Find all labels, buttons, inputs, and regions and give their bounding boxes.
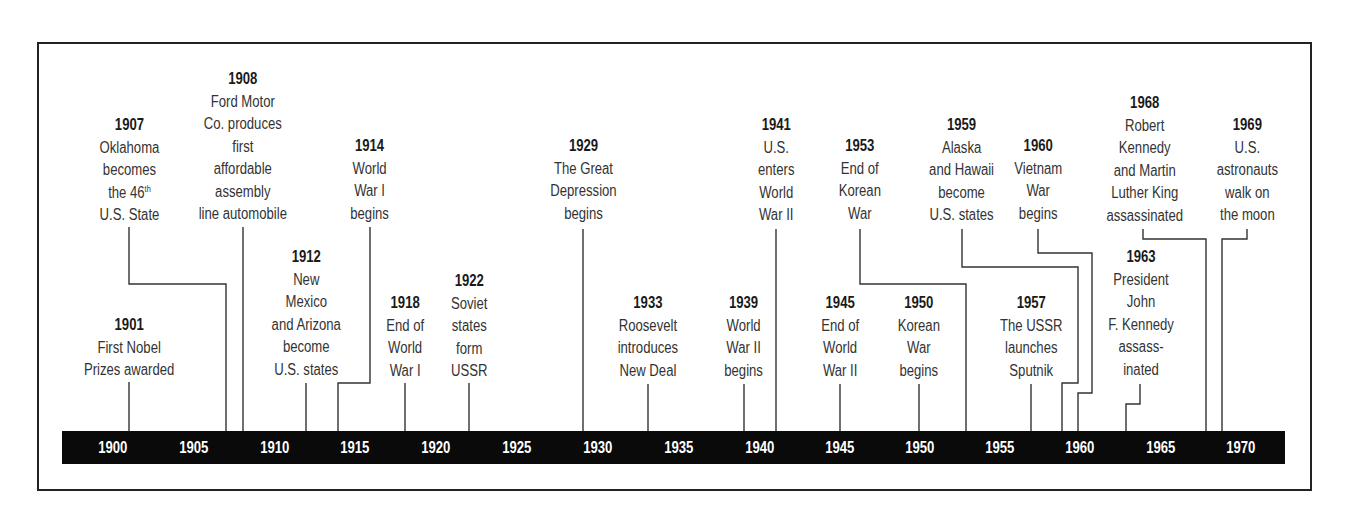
event-description-line: War <box>1014 180 1062 203</box>
event-year: 1953 <box>839 135 881 158</box>
tick-label-text: 1970 <box>1226 431 1255 464</box>
event-description-line: U.S. <box>1216 137 1277 160</box>
tick-label-text: 1960 <box>1065 431 1094 464</box>
axis-tick-label: 1925 <box>487 431 547 464</box>
axis-tick-label: 1930 <box>568 431 628 464</box>
tick-label-text: 1950 <box>905 431 934 464</box>
event-year: 1939 <box>725 292 764 315</box>
event-year: 1957 <box>1000 292 1063 315</box>
event-description-line: World <box>351 158 390 181</box>
event-description-line: Co. produces <box>199 113 287 136</box>
axis-tick-label: 1915 <box>325 431 385 464</box>
event-description-line: Vietnam <box>1014 158 1062 181</box>
event-description-line: John <box>1108 291 1174 314</box>
event-description-line: becomes <box>99 159 159 182</box>
event-description-line: Sputnik <box>1000 360 1063 383</box>
axis-tick-label: 1900 <box>83 431 143 464</box>
tick-label-text: 1920 <box>421 431 450 464</box>
event-description-line: assass- <box>1108 336 1174 359</box>
event-description-line: Prizes awarded <box>84 359 174 382</box>
event-1929: 1929The GreatDepressionbegins <box>503 135 663 225</box>
event-description-line: President <box>1108 269 1174 292</box>
event-description-line: Korean <box>839 180 881 203</box>
event-year: 1922 <box>451 270 487 293</box>
event-year: 1912 <box>271 246 340 269</box>
event-description-line: End of <box>839 158 881 181</box>
event-description-line: Oklahoma <box>99 137 159 160</box>
tick-label-text: 1910 <box>260 431 289 464</box>
event-year: 1969 <box>1216 114 1277 137</box>
tick-label-text: 1905 <box>179 431 208 464</box>
event-description-line: War I <box>351 180 390 203</box>
tick-label-text: 1940 <box>745 431 774 464</box>
connector-line-1969 <box>1222 229 1247 432</box>
event-description-line: assembly <box>199 181 287 204</box>
event-description-line: The Great <box>550 158 616 181</box>
event-description-line: War II <box>725 337 764 360</box>
tick-label-text: 1930 <box>583 431 612 464</box>
event-description-line: War <box>839 203 881 226</box>
event-description-line: begins <box>898 360 940 383</box>
event-year: 1901 <box>84 314 174 337</box>
event-description-line: astronauts <box>1216 159 1277 182</box>
event-1901: 1901First NobelPrizes awarded <box>49 314 209 382</box>
axis-tick-label: 1910 <box>245 431 305 464</box>
event-description-line: line automobile <box>199 203 287 226</box>
event-description-line: begins <box>351 203 390 226</box>
event-description-line: Korean <box>898 315 940 338</box>
event-description-line: begins <box>550 203 616 226</box>
event-description-line: Soviet <box>451 293 487 316</box>
axis-tick-label: 1965 <box>1131 431 1191 464</box>
tick-label-text: 1925 <box>502 431 531 464</box>
event-description-line: War <box>898 337 940 360</box>
event-description-line: states <box>451 315 487 338</box>
event-description-line: USSR <box>451 360 487 383</box>
event-description-line: inated <box>1108 359 1174 382</box>
event-description-line: begins <box>725 360 764 383</box>
axis-tick-label: 1920 <box>406 431 466 464</box>
ordinal-superscript: th <box>144 184 150 194</box>
axis-tick-label: 1960 <box>1050 431 1110 464</box>
event-description-line: F. Kennedy <box>1108 314 1174 337</box>
event-year: 1968 <box>1107 92 1184 115</box>
event-1922: 1922SovietstatesformUSSR <box>389 270 549 383</box>
axis-tick-label: 1940 <box>730 431 790 464</box>
timeline-axis-bar: 1900190519101915192019251930193519401945… <box>62 431 1285 464</box>
event-year: 1941 <box>758 114 794 137</box>
event-1914: 1914WorldWar Ibegins <box>290 135 450 225</box>
tick-label-text: 1935 <box>664 431 693 464</box>
event-1969: 1969U.S.astronautswalk onthe moon <box>1167 114 1327 227</box>
tick-label-text: 1900 <box>98 431 127 464</box>
event-description-line: Ford Motor <box>199 91 287 114</box>
event-description-line: begins <box>1014 203 1062 226</box>
connector-line-1963 <box>1126 384 1140 432</box>
event-description-line: the 46th <box>99 182 159 205</box>
event-description-line: First Nobel <box>84 337 174 360</box>
event-description-line: the moon <box>1216 204 1277 227</box>
tick-label-text: 1915 <box>340 431 369 464</box>
axis-tick-label: 1935 <box>649 431 709 464</box>
event-year: 1960 <box>1014 135 1062 158</box>
event-1963: 1963PresidentJohnF. Kennedyassass-inated <box>1061 246 1221 381</box>
axis-tick-label: 1950 <box>890 431 950 464</box>
event-year: 1907 <box>99 114 159 137</box>
axis-tick-label: 1945 <box>810 431 870 464</box>
tick-label-text: 1945 <box>825 431 854 464</box>
event-description-line: U.S. State <box>99 204 159 227</box>
tick-label-text: 1955 <box>985 431 1014 464</box>
axis-tick-label: 1970 <box>1211 431 1271 464</box>
axis-tick-label: 1955 <box>970 431 1030 464</box>
axis-tick-label: 1905 <box>164 431 224 464</box>
event-year: 1963 <box>1108 246 1174 269</box>
tick-label-text: 1965 <box>1146 431 1175 464</box>
event-description-line: New <box>271 269 340 292</box>
event-description-line: The USSR <box>1000 315 1063 338</box>
event-description-line: form <box>451 338 487 361</box>
event-description-line: Depression <box>550 180 616 203</box>
event-year: 1914 <box>351 135 390 158</box>
event-description-line: affordable <box>199 158 287 181</box>
event-year: 1959 <box>930 114 995 137</box>
event-year: 1950 <box>898 292 940 315</box>
event-year: 1908 <box>199 68 287 91</box>
event-description-line: walk on <box>1216 182 1277 205</box>
